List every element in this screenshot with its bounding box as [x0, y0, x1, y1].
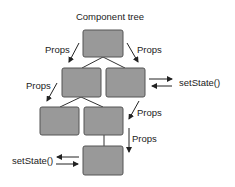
props-label-root-right: Props	[137, 44, 162, 55]
edge-child-left-grandchild-left	[60, 97, 81, 107]
setstate-label-left: setState()	[12, 155, 53, 166]
edge-root-child-left	[82, 57, 103, 68]
props-label-level3-diag: Props	[137, 107, 162, 118]
component-tree-diagram: Component tree Props Props Props Props P…	[0, 0, 235, 187]
props-label-level2-left: Props	[26, 80, 51, 91]
node-grandchild-middle	[84, 107, 123, 135]
node-child-left	[62, 68, 101, 97]
edge-child-left-grandchild-middle	[81, 97, 103, 107]
props-label-root-left: Props	[45, 44, 70, 55]
diagram-title: Component tree	[76, 11, 144, 22]
setstate-label-right: setState()	[179, 77, 220, 88]
node-root	[83, 30, 123, 57]
edge-root-child-right	[103, 57, 125, 68]
node-child-right	[106, 68, 145, 97]
node-grandchild-left	[40, 107, 79, 135]
node-leaf	[83, 146, 123, 175]
props-arrow-root-left	[69, 43, 79, 62]
props-label-level3-down: Props	[132, 133, 157, 144]
